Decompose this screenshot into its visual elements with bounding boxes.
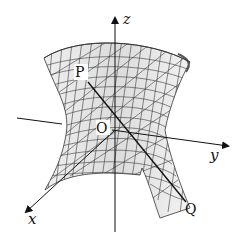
z-axis-label: z — [123, 12, 130, 26]
origin-label: O — [96, 121, 107, 135]
hyperboloid-diagram: z y x P O Q — [0, 0, 239, 235]
hyperboloid-surface — [40, 39, 196, 218]
y-axis-back — [17, 118, 62, 124]
diagram-canvas — [0, 0, 239, 235]
point-q-label: Q — [185, 202, 196, 216]
y-axis-label: y — [210, 148, 218, 163]
point-p-label: P — [75, 65, 84, 79]
x-axis-label: x — [28, 212, 36, 227]
